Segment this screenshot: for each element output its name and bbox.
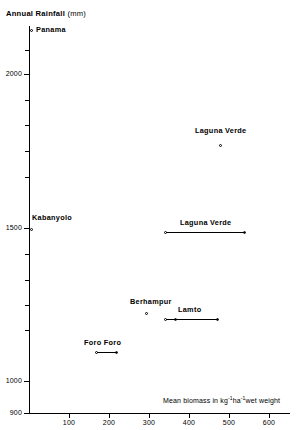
y-tick-label-1000: 1000 xyxy=(0,377,22,384)
data-label-panama: Panama xyxy=(36,25,66,34)
y-tick-1800 xyxy=(25,125,29,126)
error-bar-laguna-verde-lower xyxy=(166,232,245,233)
error-cap-right-lamto[interactable] xyxy=(216,318,219,321)
x-axis-title-suffix: wet weight xyxy=(246,397,281,404)
x-tick-label-100: 100 xyxy=(54,419,84,426)
data-label-berhampur: Berhampur xyxy=(130,297,172,306)
y-tick-2200 xyxy=(25,50,29,51)
y-axis-title-unit: (mm) xyxy=(67,9,86,18)
data-point-lamto[interactable] xyxy=(174,318,177,321)
y-tick-label-2000: 2000 xyxy=(0,70,22,77)
y-tick-1500 xyxy=(24,228,29,229)
x-axis-title-mid: ha xyxy=(233,397,241,404)
data-point-kabanyolo[interactable] xyxy=(30,228,33,231)
data-label-lamto: Lamto xyxy=(178,305,201,314)
error-cap-right-laguna-verde-lower[interactable] xyxy=(243,231,246,234)
error-cap-right-foro-foro[interactable] xyxy=(115,351,118,354)
data-point-panama[interactable] xyxy=(30,29,33,32)
x-tick-300 xyxy=(149,414,150,418)
y-tick-900 xyxy=(24,413,29,414)
x-tick-500 xyxy=(229,414,230,418)
x-tick-label-200: 200 xyxy=(94,419,124,426)
y-tick-1300 xyxy=(25,280,29,281)
x-tick-label-600: 600 xyxy=(254,419,284,426)
y-tick-label-900: 900 xyxy=(0,409,22,416)
y-tick-1900 xyxy=(25,100,29,101)
error-cap-left-lamto[interactable] xyxy=(164,318,167,321)
x-tick-400 xyxy=(189,414,190,418)
y-axis-title: Annual Rainfall (mm) xyxy=(6,9,86,18)
data-label-laguna-verde-upper: Laguna Verde xyxy=(195,126,246,135)
rainfall-biomass-scatter-figure: Annual Rainfall (mm) Mean biomass in kg-… xyxy=(0,0,304,430)
y-axis-line xyxy=(29,26,30,414)
x-tick-label-400: 400 xyxy=(174,419,204,426)
data-label-kabanyolo: Kabanyolo xyxy=(32,213,72,222)
error-cap-left-foro-foro[interactable] xyxy=(95,351,98,354)
error-bar-foro-foro xyxy=(97,352,117,353)
data-point-berhampur[interactable] xyxy=(145,312,148,315)
x-axis-title: Mean biomass in kg-1ha-1wet weight xyxy=(163,397,280,404)
y-tick-label-1500: 1500 xyxy=(0,224,22,231)
x-tick-600 xyxy=(269,414,270,418)
x-tick-200 xyxy=(109,414,110,418)
y-tick-1600 xyxy=(25,177,29,178)
y-tick-1400 xyxy=(25,254,29,255)
y-tick-1100 xyxy=(25,330,29,331)
y-tick-2000 xyxy=(24,74,29,75)
x-tick-label-300: 300 xyxy=(134,419,164,426)
x-tick-label-500: 500 xyxy=(214,419,244,426)
y-axis-title-main: Annual Rainfall xyxy=(6,9,65,18)
y-tick-1200 xyxy=(25,305,29,306)
y-tick-1000 xyxy=(24,381,29,382)
data-label-foro-foro: Foro Foro xyxy=(84,338,121,347)
error-cap-left-laguna-verde-lower[interactable] xyxy=(164,231,167,234)
x-axis-title-prefix: Mean biomass in kg xyxy=(163,397,228,404)
y-tick-1700 xyxy=(25,151,29,152)
data-point-laguna-verde-upper[interactable] xyxy=(219,144,222,147)
x-tick-100 xyxy=(69,414,70,418)
data-label-laguna-verde-lower: Laguna Verde xyxy=(180,218,231,227)
